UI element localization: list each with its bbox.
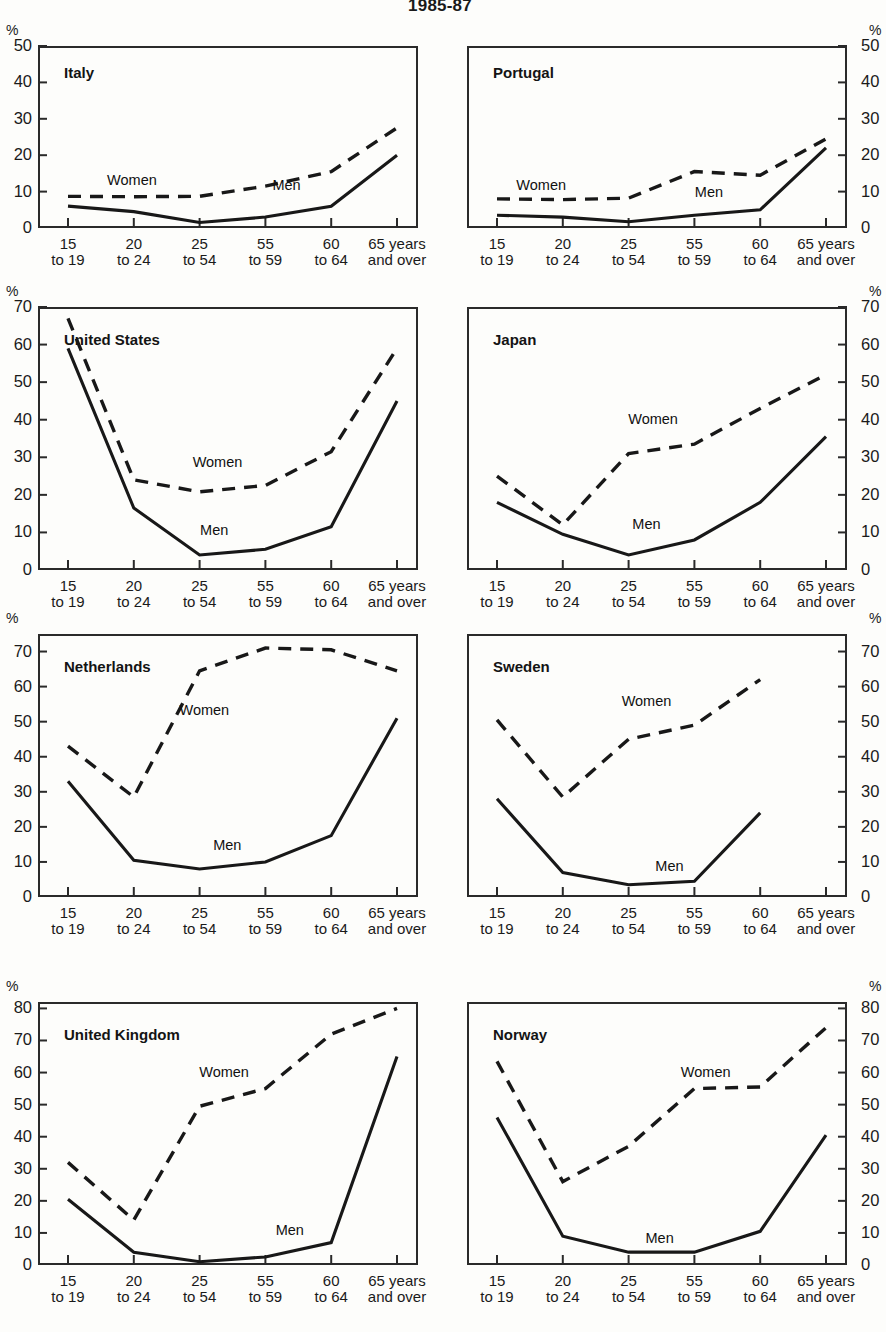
y-axis-tick-label: 30 — [0, 783, 32, 800]
y-axis-tick-label: 50 — [861, 373, 886, 390]
x-tick-line1: 15 — [452, 578, 542, 594]
y-axis-tick-label: 50 — [861, 37, 886, 54]
y-axis-tick-label: 60 — [0, 678, 32, 695]
percent-axis-label: % — [869, 610, 881, 626]
x-axis-tick-label: 60to 64 — [286, 236, 376, 268]
y-axis-tick-label: 50 — [861, 1096, 886, 1113]
x-tick-line1: 55 — [220, 236, 310, 252]
x-axis-tick-label: 55to 59 — [220, 578, 310, 610]
y-axis-tick-label: 10 — [0, 523, 32, 540]
plot-frame — [467, 46, 847, 228]
y-axis-tick-label: 0 — [861, 1256, 886, 1273]
x-tick-line1: 25 — [155, 905, 245, 921]
x-tick-line2: to 59 — [649, 252, 739, 268]
x-axis-tick-label: 65 yearsand over — [352, 1273, 442, 1305]
y-axis-tick-label: 20 — [0, 486, 32, 503]
y-axis-tick-label: 0 — [861, 219, 886, 236]
y-axis-tick-label: 10 — [0, 183, 32, 200]
x-tick-line2: to 24 — [89, 252, 179, 268]
plot-frame — [467, 307, 847, 570]
series-line-women — [497, 1028, 826, 1182]
x-tick-line2: and over — [781, 594, 871, 610]
y-axis-tick-label: 70 — [861, 298, 886, 315]
x-axis-tick-label: 20to 24 — [89, 905, 179, 937]
series-line-women — [68, 318, 397, 492]
percent-axis-label: % — [869, 22, 881, 38]
y-axis-tick-label: 40 — [0, 73, 32, 90]
x-tick-line2: to 19 — [23, 1289, 113, 1305]
x-axis-tick-label: 55to 59 — [649, 578, 739, 610]
series-annotation-women: Women — [516, 177, 566, 193]
x-tick-line2: and over — [352, 1289, 442, 1305]
x-tick-line2: to 24 — [89, 1289, 179, 1305]
y-axis-tick-label: 50 — [0, 373, 32, 390]
series-annotation-women: Women — [107, 172, 157, 188]
series-annotation-men: Men — [213, 837, 241, 853]
x-tick-line2: and over — [352, 594, 442, 610]
y-axis-tick-label: 40 — [861, 411, 886, 428]
x-axis-tick-label: 15to 19 — [452, 1273, 542, 1305]
x-axis-tick-label: 55to 59 — [649, 905, 739, 937]
x-tick-line1: 60 — [286, 905, 376, 921]
y-axis-tick-label: 20 — [861, 818, 886, 835]
series-line-men — [497, 148, 826, 222]
x-axis-tick-label: 20to 24 — [518, 578, 608, 610]
x-tick-line2: to 59 — [220, 921, 310, 937]
x-axis-tick-label: 65 yearsand over — [352, 578, 442, 610]
x-tick-line1: 25 — [584, 1273, 674, 1289]
x-tick-line2: to 19 — [452, 594, 542, 610]
y-axis-tick-label: 0 — [861, 561, 886, 578]
x-tick-line2: to 19 — [23, 594, 113, 610]
y-axis-tick-label: 30 — [0, 448, 32, 465]
series-line-men — [68, 348, 397, 555]
series-line-men — [497, 1117, 826, 1252]
y-axis-tick-label: 40 — [0, 411, 32, 428]
y-axis-tick-label: 0 — [0, 219, 32, 236]
x-axis-tick-label: 60to 64 — [715, 578, 805, 610]
x-axis-tick-label: 15to 19 — [23, 905, 113, 937]
x-axis-tick-label: 15to 19 — [23, 578, 113, 610]
y-axis-tick-label: 40 — [861, 73, 886, 90]
y-axis-tick-label: 50 — [0, 37, 32, 54]
panel-title: Japan — [493, 331, 536, 348]
x-tick-line2: and over — [781, 921, 871, 937]
y-axis-tick-label: 30 — [861, 110, 886, 127]
y-axis-tick-label: 70 — [0, 1031, 32, 1048]
x-tick-line2: to 59 — [649, 921, 739, 937]
panel-title: Sweden — [493, 658, 550, 675]
y-axis-tick-label: 30 — [0, 110, 32, 127]
series-line-women — [68, 648, 397, 797]
x-axis-tick-label: 65 yearsand over — [781, 236, 871, 268]
y-axis-tick-label: 10 — [861, 523, 886, 540]
y-axis-tick-label: 30 — [861, 783, 886, 800]
x-tick-line2: to 59 — [649, 594, 739, 610]
x-tick-line1: 20 — [89, 578, 179, 594]
x-axis-tick-label: 25to 54 — [155, 236, 245, 268]
x-tick-line2: to 19 — [23, 252, 113, 268]
series-line-men — [497, 799, 760, 885]
x-axis-tick-label: 65 yearsand over — [781, 1273, 871, 1305]
y-axis-tick-label: 80 — [0, 999, 32, 1016]
percent-axis-label: % — [6, 22, 18, 38]
plot-frame — [38, 634, 418, 897]
series-line-women — [497, 680, 760, 797]
x-axis-tick-label: 20to 24 — [518, 905, 608, 937]
panel-title: Norway — [493, 1026, 547, 1043]
x-tick-line1: 60 — [286, 1273, 376, 1289]
x-tick-line2: to 19 — [452, 252, 542, 268]
x-tick-line1: 25 — [584, 578, 674, 594]
series-annotation-men: Men — [200, 522, 228, 538]
x-tick-line2: to 24 — [89, 921, 179, 937]
x-tick-line1: 60 — [715, 905, 805, 921]
x-tick-line2: to 59 — [649, 1289, 739, 1305]
series-annotation-men: Men — [695, 184, 723, 200]
x-tick-line1: 60 — [286, 236, 376, 252]
x-tick-line1: 65 years — [352, 236, 442, 252]
y-axis-tick-label: 20 — [0, 146, 32, 163]
